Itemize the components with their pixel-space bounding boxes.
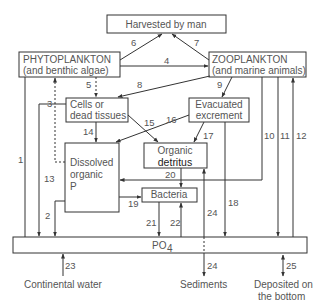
svg-text:4: 4 xyxy=(167,243,173,254)
svg-text:Bacteria: Bacteria xyxy=(151,189,188,200)
svg-text:6: 6 xyxy=(131,37,136,48)
svg-text:2: 2 xyxy=(45,210,50,221)
svg-text:14: 14 xyxy=(83,126,94,137)
node-po4: PO 4 xyxy=(13,237,307,254)
svg-text:9: 9 xyxy=(217,79,222,90)
svg-text:PO: PO xyxy=(152,240,167,251)
svg-text:3: 3 xyxy=(47,98,52,109)
node-phytoplankton: PHYTOPLANKTON (and benthic algae) xyxy=(19,52,120,77)
svg-text:15: 15 xyxy=(144,117,155,128)
svg-text:8: 8 xyxy=(137,79,142,90)
svg-text:detritus: detritus xyxy=(158,156,192,168)
svg-text:Dissolved: Dissolved xyxy=(70,157,113,168)
svg-text:4: 4 xyxy=(164,55,169,66)
svg-text:Evacuated: Evacuated xyxy=(195,99,242,110)
svg-text:(and marine animals): (and marine animals) xyxy=(212,65,306,76)
svg-text:excrement: excrement xyxy=(196,110,243,121)
node-zooplankton: ZOOPLANKTON (and marine animals) xyxy=(209,52,306,77)
svg-text:24: 24 xyxy=(207,260,218,271)
svg-text:Harvested by man: Harvested by man xyxy=(125,19,206,30)
svg-text:18: 18 xyxy=(228,197,239,208)
node-cells-or-dead-tissues: Cells or dead tissues xyxy=(66,98,128,122)
svg-text:11: 11 xyxy=(280,130,290,141)
svg-text:PHYTOPLANKTON: PHYTOPLANKTON xyxy=(23,54,111,65)
svg-text:Organic: Organic xyxy=(157,145,192,156)
svg-text:dead tissues: dead tissues xyxy=(70,110,126,121)
svg-text:Deposited on: Deposited on xyxy=(254,279,313,290)
svg-text:Sediments: Sediments xyxy=(180,279,227,290)
external-labels: Continental water Sediments Deposited on… xyxy=(24,279,313,302)
svg-text:(and benthic algae): (and benthic algae) xyxy=(23,65,109,76)
svg-text:13: 13 xyxy=(44,173,55,184)
svg-text:Continental water: Continental water xyxy=(24,279,102,290)
svg-text:23: 23 xyxy=(65,260,76,271)
phosphorus-cycle-diagram: Harvested by man PHYTOPLANKTON (and bent… xyxy=(0,0,324,308)
node-evacuated-excrement: Evacuated excrement xyxy=(189,98,249,122)
svg-text:12: 12 xyxy=(296,130,307,141)
svg-text:20: 20 xyxy=(165,169,176,180)
svg-text:ZOOPLANKTON: ZOOPLANKTON xyxy=(212,54,287,65)
svg-text:25: 25 xyxy=(286,260,297,271)
node-organic-detritus: Organic detritus xyxy=(144,143,207,168)
svg-text:organic: organic xyxy=(70,169,103,180)
svg-text:21: 21 xyxy=(146,217,157,228)
svg-text:P: P xyxy=(70,181,77,192)
svg-text:Cells or: Cells or xyxy=(70,99,105,110)
svg-text:24: 24 xyxy=(207,207,218,218)
svg-text:5: 5 xyxy=(86,79,91,90)
svg-text:22: 22 xyxy=(170,217,181,228)
svg-text:1: 1 xyxy=(18,154,23,165)
svg-text:7: 7 xyxy=(194,37,199,48)
svg-text:17: 17 xyxy=(203,130,214,141)
svg-text:16: 16 xyxy=(166,114,177,125)
svg-text:19: 19 xyxy=(128,198,139,209)
node-harvested-by-man: Harvested by man xyxy=(107,15,226,33)
svg-text:10: 10 xyxy=(264,130,275,141)
svg-text:the bottom: the bottom xyxy=(258,291,305,302)
node-bacteria: Bacteria xyxy=(142,188,197,202)
node-dissolved-organic-p: Dissolved organic P xyxy=(65,143,119,212)
